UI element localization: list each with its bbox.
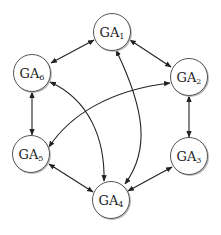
node-ga6: GA6 <box>14 55 53 94</box>
graph-diagram: GA1 GA2 GA3 GA4 GA5 GA6 <box>0 0 221 235</box>
node-ga4: GA4 <box>93 182 132 221</box>
edge-ga1-ga4 <box>116 50 141 184</box>
node-ga3: GA3 <box>171 138 210 177</box>
edge-ga1-ga6 <box>51 40 94 63</box>
node-ga2: GA2 <box>171 59 210 98</box>
node-ga1: GA1 <box>94 14 133 53</box>
edge-ga3-ga4 <box>128 167 172 191</box>
node-ga5: GA5 <box>13 136 52 175</box>
edge-ga1-ga2 <box>130 40 171 67</box>
edges <box>32 40 189 192</box>
edge-ga6-ga4 <box>50 82 104 181</box>
edge-ga4-ga5 <box>49 164 93 192</box>
